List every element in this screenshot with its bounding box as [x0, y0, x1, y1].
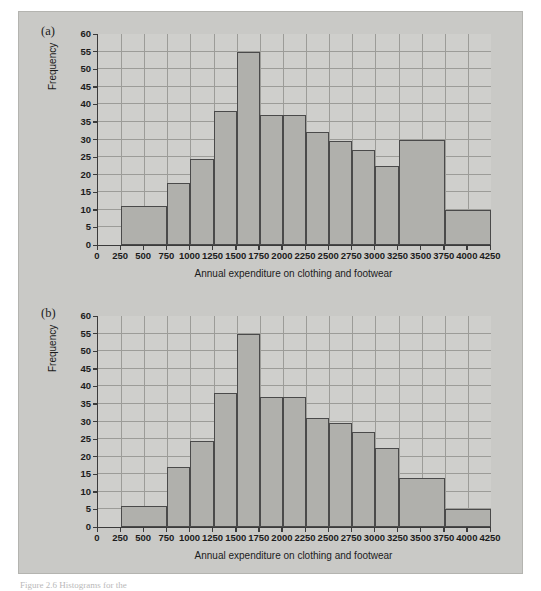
histogram-bar — [352, 432, 375, 527]
y-tick-label: 60 — [65, 29, 91, 39]
y-tick-mark — [93, 491, 97, 492]
y-tick-mark — [93, 192, 97, 193]
y-tick-mark — [93, 456, 97, 457]
gridline-horizontal — [98, 86, 491, 87]
y-tick-label: 45 — [65, 364, 91, 374]
x-tick-mark — [420, 246, 421, 250]
y-tick-label: 50 — [65, 64, 91, 74]
y-tick-label: 10 — [65, 487, 91, 497]
gridline-horizontal — [98, 385, 491, 386]
gridline-horizontal — [98, 68, 491, 69]
gridline-vertical — [121, 316, 122, 527]
histogram-bar — [121, 506, 167, 527]
y-tick-label: 0 — [65, 522, 91, 532]
figure-panel: (a) Frequency 051015202530354045505560 0… — [18, 11, 523, 574]
x-tick-mark — [351, 528, 352, 532]
y-tick-label: 30 — [65, 135, 91, 145]
histogram-bar — [237, 52, 260, 245]
figure-caption: Figure 2.6 Histograms for the — [20, 580, 127, 591]
y-tick-label: 50 — [65, 346, 91, 356]
histogram-bar — [237, 334, 260, 527]
y-tick-label: 35 — [65, 117, 91, 127]
x-tick-mark — [281, 246, 282, 250]
y-tick-mark — [93, 157, 97, 158]
histogram-bar — [375, 166, 398, 245]
histogram-bar — [214, 111, 237, 245]
x-tick-mark — [166, 246, 167, 250]
y-tick-label: 5 — [65, 504, 91, 514]
panel-letter-b: (b) — [41, 306, 56, 321]
x-tick-mark — [351, 246, 352, 250]
x-tick-mark — [120, 528, 121, 532]
histogram-bar — [214, 393, 237, 527]
panel-letter-a: (a) — [41, 24, 55, 39]
y-tick-label: 40 — [65, 381, 91, 391]
x-tick-mark — [328, 246, 329, 250]
x-tick-mark — [189, 246, 190, 250]
gridline-horizontal — [98, 368, 491, 369]
x-tick-mark — [143, 528, 144, 532]
y-tick-mark — [93, 368, 97, 369]
gridline-vertical — [445, 316, 446, 527]
x-tick-mark — [328, 528, 329, 532]
y-tick-mark — [93, 86, 97, 87]
histogram-bar — [190, 441, 213, 527]
x-tick-mark — [305, 246, 306, 250]
y-tick-mark — [93, 121, 97, 122]
histogram-bar — [260, 397, 283, 527]
y-tick-label: 60 — [65, 311, 91, 321]
x-tick-mark — [235, 528, 236, 532]
x-tick-mark — [120, 246, 121, 250]
x-tick-mark — [258, 528, 259, 532]
y-tick-mark — [93, 474, 97, 475]
histogram-bar — [167, 467, 190, 527]
y-tick-mark — [93, 316, 97, 317]
x-tick-mark — [143, 246, 144, 250]
histogram-bar — [399, 140, 445, 246]
x-tick-mark — [374, 528, 375, 532]
y-tick-label: 15 — [65, 469, 91, 479]
x-tick-mark — [305, 528, 306, 532]
x-tick-mark — [420, 528, 421, 532]
y-tick-mark — [93, 333, 97, 334]
y-tick-label: 25 — [65, 152, 91, 162]
x-tick-mark — [443, 528, 444, 532]
histogram-bar — [167, 183, 190, 245]
y-tick-mark — [93, 351, 97, 352]
x-tick-mark — [212, 528, 213, 532]
y-tick-label: 30 — [65, 417, 91, 427]
histogram-bar — [399, 478, 445, 527]
x-tick-mark — [397, 246, 398, 250]
x-axis-label-b: Annual expenditure on clothing and footw… — [97, 550, 490, 561]
y-tick-label: 35 — [65, 399, 91, 409]
histogram-bar — [329, 423, 352, 527]
y-tick-mark — [93, 227, 97, 228]
y-tick-label: 15 — [65, 187, 91, 197]
histogram-bar — [190, 159, 213, 245]
gridline-vertical — [144, 316, 145, 527]
gridline-horizontal — [98, 103, 491, 104]
histogram-bar — [329, 141, 352, 245]
y-tick-mark — [93, 209, 97, 210]
x-tick-mark — [212, 246, 213, 250]
y-tick-label: 20 — [65, 170, 91, 180]
subplot-b: (b) Frequency 051015202530354045505560 0… — [19, 294, 524, 575]
y-tick-mark — [93, 69, 97, 70]
x-tick-label: 4250 — [474, 251, 506, 261]
y-tick-mark — [93, 386, 97, 387]
y-tick-mark — [93, 34, 97, 35]
y-tick-label: 5 — [65, 222, 91, 232]
y-tick-label: 55 — [65, 329, 91, 339]
plot-area-a — [97, 34, 491, 246]
gridline-horizontal — [98, 350, 491, 351]
gridline-horizontal — [98, 333, 491, 334]
y-tick-label: 25 — [65, 434, 91, 444]
y-tick-label: 45 — [65, 82, 91, 92]
y-tick-mark — [93, 51, 97, 52]
y-axis-label-a: Frequency — [47, 43, 58, 90]
plot-area-b — [97, 316, 491, 528]
histogram-bar — [445, 509, 491, 527]
x-tick-mark — [235, 246, 236, 250]
x-tick-mark — [166, 528, 167, 532]
histogram-bar — [283, 115, 306, 245]
